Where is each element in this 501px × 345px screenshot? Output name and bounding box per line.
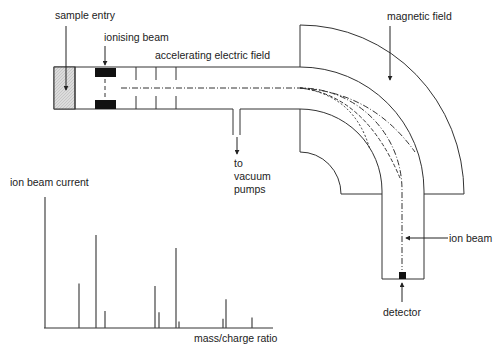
label-sample-entry: sample entry bbox=[55, 9, 116, 21]
label-vacuum-1: to bbox=[234, 157, 243, 169]
mass-spectrum: ion beam current mass/charge ratio bbox=[10, 176, 278, 344]
spectrum-ylabel: ion beam current bbox=[10, 176, 89, 188]
spectrum-xlabel: mass/charge ratio bbox=[194, 332, 278, 344]
label-magnetic-field: magnetic field bbox=[387, 10, 452, 22]
ionising-block-top bbox=[95, 68, 116, 77]
label-detector: detector bbox=[383, 306, 421, 318]
mass-spectrometer-diagram: sample entry ionising beam accelerating … bbox=[0, 0, 501, 345]
label-vacuum-2: vacuum bbox=[234, 170, 271, 182]
label-accelerating-field: accelerating electric field bbox=[155, 49, 270, 61]
magnet bbox=[300, 25, 464, 194]
ionising-block-bottom bbox=[95, 100, 116, 109]
label-vacuum-3: pumps bbox=[234, 183, 266, 195]
sample-chamber bbox=[54, 67, 75, 109]
label-ion-beam: ion beam bbox=[449, 232, 492, 244]
spectrum-peaks bbox=[45, 197, 252, 328]
label-ionising-beam: ionising beam bbox=[104, 31, 169, 43]
detector bbox=[399, 272, 406, 279]
